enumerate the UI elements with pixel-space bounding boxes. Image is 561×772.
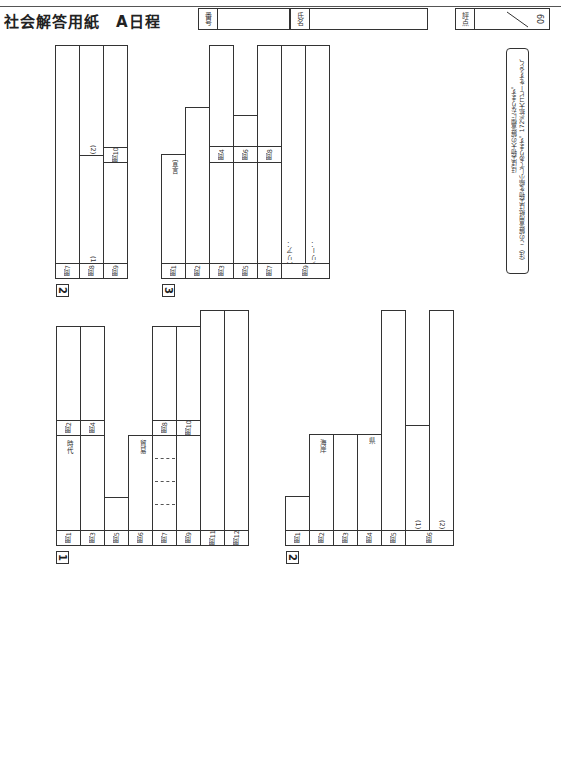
page-title: 社会解答用紙A日程 [4, 10, 161, 31]
label-q2: 問2 [56, 420, 81, 436]
answer-q11[interactable] [200, 310, 225, 531]
answer-s3-q5[interactable] [233, 162, 258, 264]
answer-s3-q2[interactable] [185, 107, 210, 264]
suffix-jidai: 時代 [65, 440, 72, 454]
answer-q4[interactable] [80, 326, 105, 421]
answer-q8[interactable] [152, 326, 177, 421]
answer-q10[interactable] [103, 45, 128, 148]
q7-divider-2 [155, 481, 175, 482]
suffix-ken: 県 [367, 437, 374, 444]
answer-q8-2[interactable] [79, 45, 104, 156]
label-s3-q3: 問3 [209, 263, 234, 279]
label-s3-q9: 問9 [281, 263, 330, 279]
answer-s3-q8[interactable] [257, 45, 282, 147]
student-number-field[interactable]: 番号 [198, 8, 290, 30]
answer-s3-q4[interactable] [209, 45, 234, 147]
label-q10: 問10 [103, 147, 128, 163]
answer-q2[interactable] [56, 326, 81, 421]
label-s2-q4: 問4 [357, 530, 382, 546]
schedule-label: A日程 [116, 13, 161, 31]
q7-divider-3 [155, 504, 175, 505]
label-q9: 問9 [103, 263, 128, 279]
label-q9: 問9 [176, 530, 201, 546]
answer-s3-q9-barrier[interactable] [281, 45, 306, 264]
label-q10: 問10 [176, 420, 201, 436]
answer-q7[interactable] [152, 435, 177, 531]
label-s2-q3: 問3 [333, 530, 358, 546]
label-s3-q8: 問8 [257, 146, 282, 163]
answer-q7[interactable] [55, 45, 80, 264]
score-slash-icon [506, 11, 530, 28]
label-q7: 問7 [152, 530, 177, 546]
answer-s2-q6-1[interactable] [405, 425, 430, 531]
name-field[interactable]: 氏名 [290, 8, 428, 30]
answer-q8-1[interactable] [79, 155, 104, 264]
suffix-boeki: 貿易 [138, 440, 145, 454]
section-number-3: 3 [162, 284, 175, 297]
label-q8: 問8 [79, 263, 104, 279]
answer-s3-q3[interactable] [209, 162, 234, 264]
score-field: 評点 60 [455, 8, 550, 30]
answer-q9[interactable] [103, 162, 128, 264]
label-q4: 問4 [80, 420, 105, 436]
answer-s2-q3[interactable] [333, 434, 358, 531]
answer-s3-q6[interactable] [233, 115, 258, 147]
name-label: 氏名 [291, 9, 310, 29]
label-q5: 問5 [104, 530, 129, 546]
note-line-1: （注）この解答用紙は実物を縮小してあります。172%拡大コピーをすると、 [518, 55, 526, 264]
answer-s3-q9-free[interactable] [305, 45, 330, 264]
s2-q6-sub-2: (2) [438, 520, 445, 529]
note-box: （注）この解答用紙は実物を縮小してあります。172%拡大コピーをすると、 ほぼ実… [506, 48, 529, 274]
label-s2-q5: 問5 [381, 530, 406, 546]
label-q7: 問7 [55, 263, 80, 279]
label-q3: 問3 [80, 530, 105, 546]
note-line-2: ほぼ実物大の解答欄になります。 [510, 83, 518, 173]
answer-s3-q7[interactable] [257, 162, 282, 264]
q7-divider-1 [155, 458, 175, 459]
label-q8: 問8 [152, 420, 177, 436]
label-q11: 問11 [200, 530, 225, 546]
answer-q10[interactable] [176, 326, 201, 421]
label-s3-q1: 問1 [161, 263, 186, 279]
suffix-sengen: 宣言 [170, 160, 177, 174]
score-label: 評点 [456, 9, 475, 29]
label-s2-q1: 問1 [285, 530, 310, 546]
answer-q5[interactable] [104, 497, 129, 531]
label-q6: 問6 [128, 530, 153, 546]
label-q12: 問12 [224, 530, 249, 546]
label-s3-q5: 問5 [233, 263, 258, 279]
label-s2-q6: 問6 [405, 530, 454, 546]
answer-q9[interactable] [176, 435, 201, 531]
label-s3-q7: 問7 [257, 263, 282, 279]
answer-s2-q1[interactable] [285, 496, 310, 531]
section-number-1: 1 [56, 551, 69, 564]
answer-q12[interactable] [224, 310, 249, 531]
label-s3-q2: 問2 [185, 263, 210, 279]
answer-s2-q5[interactable] [381, 310, 406, 531]
q8-sub-2: (2) [89, 145, 96, 154]
suffix-kaigan: 海岸 [318, 439, 325, 453]
student-number-label: 番号 [199, 9, 218, 29]
answer-s2-q4[interactable] [357, 434, 382, 531]
answer-s2-q6-2[interactable] [429, 310, 454, 531]
label-s3-q6: 問6 [233, 146, 258, 163]
label-s3-q4: 問4 [209, 146, 234, 163]
top-rule [0, 6, 561, 7]
answer-q3[interactable] [80, 435, 105, 531]
section-number-2b: 2 [56, 284, 69, 297]
score-total: 60 [535, 14, 543, 24]
label-s2-q2: 問2 [309, 530, 334, 546]
s2-q6-sub-1: (1) [414, 520, 421, 529]
label-q1: 問1 [56, 530, 81, 546]
title-text: 社会解答用紙 [4, 13, 100, 31]
section-number-2a: 2 [286, 551, 299, 564]
